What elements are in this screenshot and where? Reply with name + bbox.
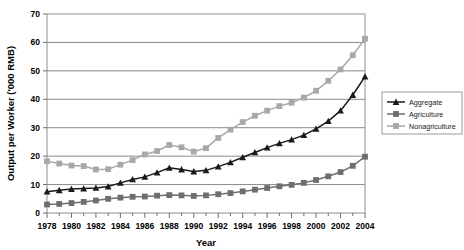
data-point	[105, 166, 111, 172]
data-point	[56, 201, 62, 207]
xtick-label-1978: 1978	[38, 221, 57, 231]
ytick-label-70: 70	[31, 9, 41, 19]
data-point	[240, 188, 246, 194]
data-point	[240, 119, 246, 125]
x-axis-title: Year	[196, 237, 216, 248]
xtick-label-1996: 1996	[258, 221, 277, 231]
data-point	[325, 78, 331, 84]
xtick-label-1980: 1980	[62, 221, 81, 231]
data-point	[93, 167, 99, 173]
xtick-label-1984: 1984	[111, 221, 130, 231]
series-line	[47, 77, 365, 192]
data-point	[313, 177, 319, 183]
data-point	[166, 142, 172, 148]
xtick-label-2004: 2004	[356, 221, 375, 231]
data-point	[228, 127, 234, 133]
ytick-label-50: 50	[31, 66, 41, 76]
data-point	[301, 180, 307, 186]
data-point	[93, 198, 99, 204]
data-point	[252, 187, 258, 193]
ytick-label-10: 10	[31, 180, 41, 190]
data-point	[81, 199, 87, 205]
ytick-label-30: 30	[31, 123, 41, 133]
data-point	[252, 113, 258, 119]
data-point	[393, 123, 399, 129]
data-point	[142, 152, 148, 158]
data-point	[362, 154, 368, 160]
data-point	[203, 145, 209, 151]
chart-container: 0102030405060701978198019821984198619881…	[0, 0, 464, 250]
data-point	[56, 161, 62, 167]
ytick-label-60: 60	[31, 37, 41, 47]
data-point	[203, 192, 209, 198]
series-nonagriculture	[44, 36, 368, 173]
data-point	[325, 173, 331, 179]
data-point	[338, 169, 344, 175]
xtick-label-1988: 1988	[160, 221, 179, 231]
y-axis-title: Output per Worker ('000 RMB)	[5, 46, 16, 181]
xtick-label-1990: 1990	[184, 221, 203, 231]
data-point	[264, 185, 270, 191]
data-point	[350, 52, 356, 58]
data-point	[215, 191, 221, 197]
data-point	[362, 36, 368, 42]
data-point	[313, 88, 319, 94]
data-point	[338, 67, 344, 73]
data-point	[154, 193, 160, 199]
data-point	[105, 196, 111, 202]
data-point	[300, 132, 307, 138]
data-point	[301, 95, 307, 101]
xtick-label-2000: 2000	[307, 221, 326, 231]
line-chart: 0102030405060701978198019821984198619881…	[0, 0, 464, 250]
data-point	[69, 163, 75, 169]
legend-label: Nonagriculture	[409, 122, 456, 131]
xtick-label-1992: 1992	[209, 221, 228, 231]
ytick-label-20: 20	[31, 151, 41, 161]
data-point	[228, 190, 234, 196]
xtick-label-1998: 1998	[282, 221, 301, 231]
xtick-label-2002: 2002	[331, 221, 350, 231]
data-point	[69, 200, 75, 206]
data-point	[130, 194, 136, 200]
data-point	[142, 194, 148, 200]
data-point	[215, 135, 221, 141]
ytick-label-40: 40	[31, 94, 41, 104]
data-point	[44, 158, 50, 164]
data-point	[289, 100, 295, 106]
data-point	[117, 162, 123, 168]
data-point	[166, 192, 172, 198]
data-point	[276, 183, 282, 189]
series-aggregate	[44, 73, 369, 194]
data-point	[191, 149, 197, 155]
data-point	[264, 108, 270, 114]
data-point	[179, 144, 185, 150]
data-point	[81, 163, 87, 169]
data-point	[362, 73, 369, 79]
xtick-label-1986: 1986	[135, 221, 154, 231]
data-point	[313, 125, 320, 131]
data-point	[289, 182, 295, 188]
data-point	[44, 202, 50, 208]
legend-label: Agriculture	[409, 110, 443, 119]
data-point	[179, 192, 185, 198]
data-point	[117, 195, 123, 201]
xtick-label-1982: 1982	[86, 221, 105, 231]
plot-area-border	[47, 14, 365, 213]
data-point	[191, 193, 197, 199]
legend-label: Aggregate	[409, 98, 442, 107]
ytick-label-0: 0	[35, 208, 40, 218]
series-agriculture	[44, 154, 368, 208]
data-point	[350, 163, 356, 169]
data-point	[154, 148, 160, 154]
xtick-label-1994: 1994	[233, 221, 252, 231]
data-point	[393, 111, 399, 117]
data-point	[130, 157, 136, 163]
data-point	[276, 103, 282, 109]
